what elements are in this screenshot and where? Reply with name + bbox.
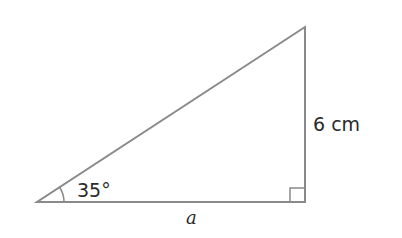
vertical-side-label: 6 cm (313, 113, 360, 135)
right-angle-marker-icon (290, 188, 305, 202)
base-side-label: a (186, 207, 197, 228)
angle-arc-icon (59, 187, 64, 203)
angle-label: 35° (77, 179, 111, 201)
triangle-shape (37, 27, 305, 202)
triangle-diagram: 35° 6 cm a (0, 0, 402, 238)
